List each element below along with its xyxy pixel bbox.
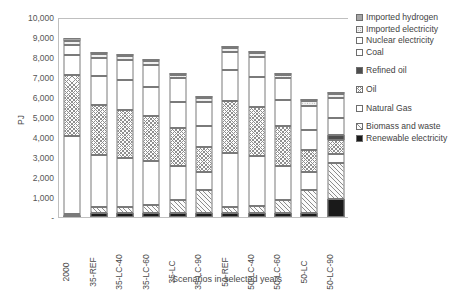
bar-segment[interactable]: [90, 52, 107, 54]
bar-segment[interactable]: [301, 106, 318, 130]
legend-item[interactable]: Biomass and waste: [356, 121, 452, 132]
bar-segment[interactable]: [143, 87, 160, 116]
bar-segment[interactable]: [222, 101, 239, 153]
bar-segment[interactable]: [301, 190, 318, 214]
stacked-bar[interactable]: [275, 73, 292, 217]
bar-segment[interactable]: [327, 163, 344, 199]
bar-segment[interactable]: [222, 46, 239, 48]
bar-segment[interactable]: [143, 116, 160, 161]
bar-segment[interactable]: [301, 172, 318, 190]
bar-segment[interactable]: [327, 92, 344, 94]
bar-segment[interactable]: [301, 213, 318, 217]
bar-segment[interactable]: [248, 206, 265, 214]
bar-segment[interactable]: [116, 54, 133, 56]
bar-segment[interactable]: [327, 135, 344, 140]
bar-segment[interactable]: [327, 140, 344, 154]
bar-segment[interactable]: [275, 100, 292, 126]
bar-segment[interactable]: [327, 98, 344, 118]
bar-segment[interactable]: [248, 51, 265, 53]
bar-segment[interactable]: [275, 200, 292, 213]
bar-segment[interactable]: [275, 75, 292, 78]
bar-segment[interactable]: [195, 102, 212, 126]
bar-segment[interactable]: [169, 200, 186, 213]
bar-segment[interactable]: [222, 70, 239, 101]
bar-segment[interactable]: [327, 154, 344, 163]
legend-item[interactable]: Oil: [356, 84, 452, 95]
bar-segment[interactable]: [90, 58, 107, 76]
bar-segment[interactable]: [248, 57, 265, 77]
bar-segment[interactable]: [116, 56, 133, 59]
bar-segment[interactable]: [327, 199, 344, 217]
bar-segment[interactable]: [169, 213, 186, 217]
bar-segment[interactable]: [90, 155, 107, 207]
bar-segment[interactable]: [116, 207, 133, 214]
bar-segment[interactable]: [169, 78, 186, 102]
bar-segment[interactable]: [116, 80, 133, 110]
bar-segment[interactable]: [90, 105, 107, 155]
bar-segment[interactable]: [195, 172, 212, 190]
bar-segment[interactable]: [248, 107, 265, 156]
bar-segment[interactable]: [275, 126, 292, 166]
bar-segment[interactable]: [169, 73, 186, 75]
bar-segment[interactable]: [195, 96, 212, 98]
bar-segment[interactable]: [195, 190, 212, 214]
bar-segment[interactable]: [301, 130, 318, 150]
bar-segment[interactable]: [64, 136, 81, 214]
bar-segment[interactable]: [116, 158, 133, 207]
bar-segment[interactable]: [248, 156, 265, 206]
bar-segment[interactable]: [143, 65, 160, 87]
bar-segment[interactable]: [169, 75, 186, 78]
stacked-bar[interactable]: [301, 99, 318, 217]
stacked-bar[interactable]: [327, 93, 344, 217]
bar-segment[interactable]: [195, 98, 212, 102]
bar-segment[interactable]: [222, 207, 239, 213]
bar-segment[interactable]: [116, 110, 133, 158]
bar-segment[interactable]: [275, 78, 292, 100]
legend-item[interactable]: Refined oil: [356, 65, 452, 76]
bar-segment[interactable]: [143, 205, 160, 213]
bar-segment[interactable]: [143, 213, 160, 217]
bar-segment[interactable]: [64, 41, 81, 45]
stacked-bar[interactable]: [90, 52, 107, 217]
bar-segment[interactable]: [169, 128, 186, 166]
stacked-bar[interactable]: [195, 96, 212, 217]
bar-segment[interactable]: [248, 53, 265, 57]
legend-item[interactable]: Coal: [356, 47, 452, 58]
bar-segment[interactable]: [90, 54, 107, 58]
bar-segment[interactable]: [169, 102, 186, 128]
bar-segment[interactable]: [275, 213, 292, 217]
bar-segment[interactable]: [143, 161, 160, 205]
bar-segment[interactable]: [90, 207, 107, 213]
bar-segment[interactable]: [90, 76, 107, 105]
bar-segment[interactable]: [195, 126, 212, 147]
bar-segment[interactable]: [64, 55, 81, 75]
bar-segment[interactable]: [301, 150, 318, 172]
bar-segment[interactable]: [301, 101, 318, 106]
stacked-bar[interactable]: [248, 51, 265, 217]
legend-item[interactable]: Nuclear electricity: [356, 35, 452, 46]
bar-segment[interactable]: [222, 48, 239, 52]
bar-segment[interactable]: [222, 213, 239, 217]
bar-segment[interactable]: [248, 213, 265, 217]
bar-segment[interactable]: [195, 147, 212, 172]
legend-item[interactable]: Natural Gas: [356, 103, 452, 114]
bar-segment[interactable]: [301, 99, 318, 101]
bar-segment[interactable]: [116, 60, 133, 80]
bar-segment[interactable]: [222, 52, 239, 70]
bar-segment[interactable]: [64, 45, 81, 55]
bar-segment[interactable]: [248, 77, 265, 107]
stacked-bar[interactable]: [222, 46, 239, 217]
stacked-bar[interactable]: [143, 60, 160, 217]
bar-segment[interactable]: [275, 166, 292, 200]
bar-segment[interactable]: [195, 213, 212, 217]
stacked-bar[interactable]: [169, 73, 186, 217]
bar-segment[interactable]: [64, 38, 81, 41]
bar-segment[interactable]: [275, 73, 292, 75]
bar-segment[interactable]: [143, 61, 160, 64]
legend-item[interactable]: Renewable electricity: [356, 133, 452, 144]
bar-segment[interactable]: [327, 94, 344, 98]
bar-segment[interactable]: [116, 213, 133, 217]
legend-item[interactable]: Imported electricity: [356, 24, 452, 35]
stacked-bar[interactable]: [64, 38, 81, 217]
bar-segment[interactable]: [222, 153, 239, 207]
